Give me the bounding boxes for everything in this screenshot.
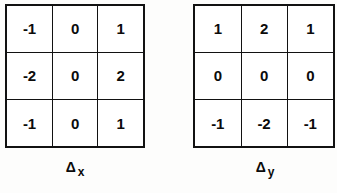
cell-r1c2: 2 <box>98 52 143 100</box>
sobel-kernels-figure: -1 0 1 -2 0 2 -1 0 1 Δx <box>0 0 337 193</box>
cell-r0c0: 1 <box>195 6 241 52</box>
table-row: 1 2 1 <box>195 6 333 52</box>
cell-r2c0: -1 <box>7 100 52 146</box>
cell-r1c1: 0 <box>241 52 287 100</box>
cell-r2c2: 1 <box>98 100 143 146</box>
cell-r1c1: 0 <box>52 52 97 100</box>
table-row: 0 0 0 <box>195 52 333 100</box>
delta-subscript: x <box>78 165 85 179</box>
cell-r0c2: 1 <box>287 6 333 52</box>
table-row: -1 -2 -1 <box>195 100 333 146</box>
delta-symbol: Δ <box>66 159 76 175</box>
delta-subscript: y <box>268 165 275 179</box>
cell-r0c1: 0 <box>52 6 97 52</box>
cell-r2c1: 0 <box>52 100 97 146</box>
cell-r1c0: 0 <box>195 52 241 100</box>
cell-r2c1: -2 <box>241 100 287 146</box>
kernel-delta-y-caption: Δy <box>193 158 337 179</box>
cell-r0c1: 2 <box>241 6 287 52</box>
table-row: -1 0 1 <box>7 6 143 52</box>
table-row: -1 0 1 <box>7 100 143 146</box>
cell-r0c2: 1 <box>98 6 143 52</box>
cell-r1c2: 0 <box>287 52 333 100</box>
cell-r2c2: -1 <box>287 100 333 146</box>
kernel-delta-x-grid: -1 0 1 -2 0 2 -1 0 1 <box>5 4 145 148</box>
cell-r0c0: -1 <box>7 6 52 52</box>
kernel-delta-y-grid: 1 2 1 0 0 0 -1 -2 -1 <box>193 4 335 148</box>
table-row: -2 0 2 <box>7 52 143 100</box>
cell-r1c0: -2 <box>7 52 52 100</box>
delta-symbol: Δ <box>256 159 266 175</box>
kernel-delta-x-caption: Δx <box>5 158 145 179</box>
cell-r2c0: -1 <box>195 100 241 146</box>
